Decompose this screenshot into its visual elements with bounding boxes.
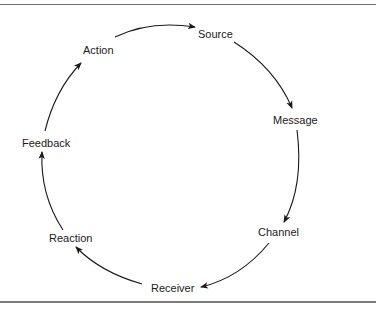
bottom-border-rule bbox=[0, 301, 376, 303]
arrow-source-to-message bbox=[234, 42, 292, 108]
node-source: Source bbox=[198, 28, 233, 40]
arrow-channel-to-receiver bbox=[201, 243, 269, 287]
node-reaction: Reaction bbox=[49, 232, 92, 244]
node-feedback: Feedback bbox=[22, 137, 70, 149]
node-channel: Channel bbox=[258, 226, 299, 238]
arrow-feedback-to-action bbox=[45, 63, 81, 131]
arrow-message-to-channel bbox=[284, 130, 299, 222]
node-message: Message bbox=[273, 114, 318, 126]
arrow-reaction-to-feedback bbox=[42, 152, 63, 230]
cycle-arrows bbox=[0, 0, 376, 314]
node-receiver: Receiver bbox=[151, 282, 194, 294]
arrow-receiver-to-reaction bbox=[76, 247, 142, 284]
arrow-action-to-source bbox=[115, 25, 195, 37]
node-action: Action bbox=[83, 44, 114, 56]
